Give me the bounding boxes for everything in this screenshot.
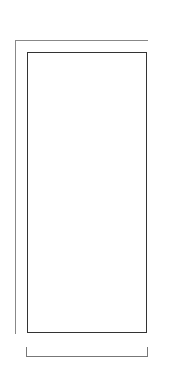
repeat-bracket <box>26 347 148 357</box>
knitting-chart-grid <box>15 40 148 334</box>
